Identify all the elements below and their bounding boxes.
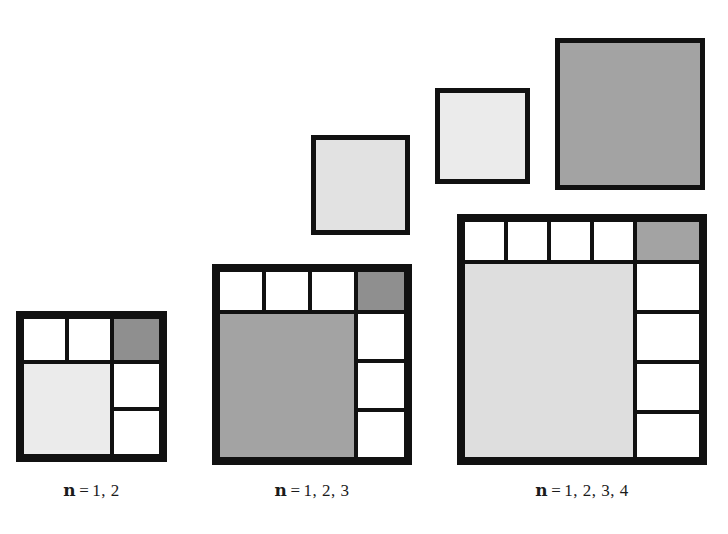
unit-cell-white [66,316,113,363]
figure-n123 [212,264,412,465]
caption-symbol: n [275,480,288,500]
unit-cell-white [309,269,357,313]
accent-cell [634,219,702,263]
unit-cell-white [591,219,636,263]
column-cell-white [355,311,407,362]
caption-figure-n12: n=1, 2 [16,480,167,501]
caption-equals: = [548,481,564,500]
caption-figure-n1234: n=1, 2, 3, 4 [457,480,707,501]
lone-square-3 [435,88,530,184]
caption-equals: = [287,481,303,500]
caption-equals: = [76,481,92,500]
column-cell-white [634,261,702,313]
column-cell-white [634,361,702,413]
caption-value: 1, 2, 3, 4 [564,481,629,500]
accent-cell [355,269,407,313]
figure-n12 [16,311,167,462]
main-block [217,311,357,460]
accent-cell [111,316,162,363]
unit-cell-white [263,269,311,313]
figure-n12-cells [21,316,162,457]
column-cell-white [355,360,407,411]
caption-figure-n123: n=1, 2, 3 [212,480,412,501]
column-cell-white [634,311,702,363]
column-cell-white [111,408,162,457]
column-cell-white [355,409,407,460]
column-cell-white [111,361,162,410]
figure-n1234-cells [462,219,702,460]
figure-n1234 [457,214,707,465]
unit-cell-white [21,316,68,363]
figure-n123-cells [217,269,407,460]
caption-value: 1, 2 [92,481,120,500]
main-block [21,361,113,457]
caption-symbol: n [535,480,548,500]
unit-cell-white [462,219,507,263]
column-cell-white [634,411,702,460]
unit-cell-white [505,219,550,263]
unit-cell-white [217,269,265,313]
diagram-canvas: n=1, 2 n=1, 2, 3 [0,0,728,534]
lone-square-2 [311,135,410,235]
unit-cell-white [548,219,593,263]
caption-value: 1, 2, 3 [303,481,349,500]
lone-square-4 [555,38,705,190]
main-block [462,261,636,460]
caption-symbol: n [63,480,76,500]
